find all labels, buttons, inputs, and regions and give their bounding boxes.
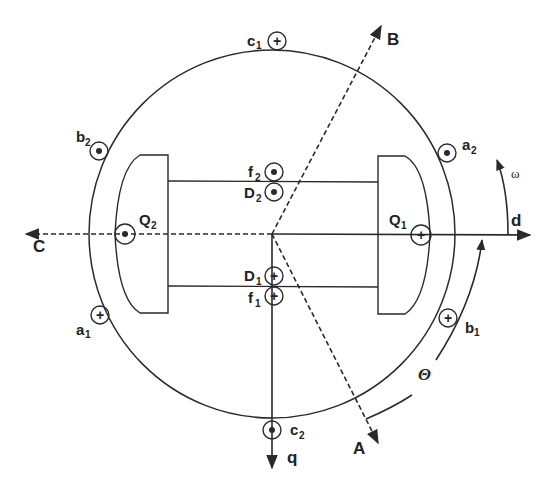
- svg-text:1: 1: [256, 40, 262, 51]
- plus-icon: +: [270, 288, 278, 304]
- svg-text:a: a: [462, 136, 471, 153]
- label-omega: ω: [511, 166, 520, 181]
- label-c-axis: C: [33, 237, 45, 256]
- svg-text:b: b: [76, 128, 85, 145]
- d-axis: [272, 234, 530, 235]
- conductor-b2: b 2: [76, 128, 108, 160]
- dot-icon: [271, 169, 277, 175]
- dot-icon: [96, 148, 102, 154]
- conductor-f2: f 2: [248, 163, 283, 183]
- label-a-axis: A: [353, 439, 365, 458]
- plus-icon: +: [444, 310, 452, 326]
- svg-text:2: 2: [471, 145, 477, 156]
- conductor-q1: + Q 1: [389, 211, 431, 245]
- conductor-c2: c 2: [263, 421, 305, 441]
- omega-arrow: [497, 160, 508, 234]
- dot-icon: [271, 189, 277, 195]
- svg-text:1: 1: [85, 329, 91, 340]
- plus-icon: +: [417, 227, 425, 243]
- svg-text:D: D: [244, 184, 255, 201]
- plus-icon: +: [270, 268, 278, 284]
- plus-icon: +: [96, 307, 104, 323]
- svg-text:f: f: [248, 289, 254, 306]
- conductor-f1: + f 1: [248, 287, 283, 309]
- dot-icon: [122, 231, 128, 237]
- svg-text:c: c: [290, 421, 298, 438]
- conductor-c1: + c 1: [247, 32, 286, 51]
- svg-text:f: f: [248, 163, 254, 180]
- svg-text:a: a: [76, 321, 85, 338]
- conductor-a2: a 2: [438, 136, 477, 162]
- a-axis: [272, 234, 378, 443]
- svg-text:1: 1: [256, 276, 262, 287]
- svg-text:b: b: [465, 319, 474, 336]
- dot-icon: [269, 427, 275, 433]
- conductor-b1: + b 1: [439, 309, 480, 338]
- conductor-a1: + a 1: [76, 306, 109, 340]
- theta-arc-lower: [366, 395, 412, 419]
- svg-text:D: D: [244, 267, 255, 284]
- svg-text:2: 2: [151, 220, 157, 231]
- svg-text:2: 2: [255, 172, 261, 183]
- conductor-d2: D 2: [244, 183, 283, 204]
- svg-text:2: 2: [85, 137, 91, 148]
- b-axis: [272, 26, 381, 234]
- label-d-axis: d: [511, 211, 521, 230]
- conductor-q2: Q 2: [115, 211, 157, 244]
- label-b-axis: B: [387, 30, 399, 49]
- conductor-d1: + D 1: [244, 267, 283, 287]
- svg-text:1: 1: [255, 298, 261, 309]
- svg-text:Q: Q: [139, 211, 151, 228]
- label-q-axis: q: [287, 448, 297, 467]
- svg-text:2: 2: [256, 193, 262, 204]
- svg-text:1: 1: [474, 327, 480, 338]
- svg-text:1: 1: [401, 220, 407, 231]
- svg-text:Q: Q: [389, 211, 401, 228]
- svg-text:c: c: [247, 32, 255, 49]
- dot-icon: [444, 150, 450, 156]
- svg-text:2: 2: [299, 430, 305, 441]
- machine-diagram: d q A B C ω Θ + c 1 c 2 + a 1 a 2 + b 1: [0, 0, 547, 490]
- plus-icon: +: [273, 33, 281, 49]
- label-theta: Θ: [418, 365, 431, 384]
